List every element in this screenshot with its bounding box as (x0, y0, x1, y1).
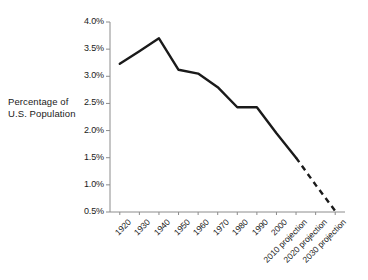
projection-data-line (296, 158, 335, 211)
historical-data-line (120, 38, 296, 157)
axis-lines (110, 22, 345, 212)
plot-area (0, 0, 368, 280)
y-axis-tick-marks (106, 22, 110, 212)
population-percentage-line-chart: Percentage of U.S. Population 4.0%3.5%3.… (0, 0, 368, 280)
